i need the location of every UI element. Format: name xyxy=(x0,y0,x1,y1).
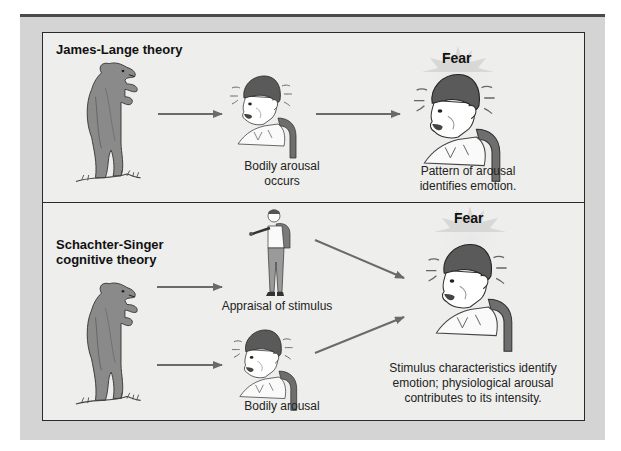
arrow-arousal-to-emotion xyxy=(315,317,404,353)
caption-pattern-identifies-emotion: Pattern of arousal identifies emotion. xyxy=(408,164,528,194)
caption-line: emotion; physiological arousal xyxy=(378,376,568,391)
bear-icon xyxy=(76,63,141,181)
hiker-pointing-icon xyxy=(249,210,290,297)
caption-line: contributes to its intensity. xyxy=(378,391,568,406)
caption-line: identifies emotion. xyxy=(408,179,528,194)
caption-line: Stimulus characteristics identify xyxy=(378,361,568,376)
emotion-label-fear: Fear xyxy=(454,210,484,226)
caption-line: Pattern of arousal xyxy=(408,164,528,179)
caption-bodily-arousal-occurs: Bodily arousal occurs xyxy=(232,159,332,189)
fearful-boy-icon xyxy=(426,245,512,352)
frightened-boy-icon xyxy=(230,76,296,158)
caption-bodily-arousal: Bodily arousal xyxy=(232,399,332,414)
caption-line: occurs xyxy=(232,174,332,189)
arrow-appraisal-to-emotion xyxy=(315,240,404,278)
emotion-label-fear: Fear xyxy=(442,50,472,66)
bear-icon xyxy=(76,283,141,404)
caption-appraisal-of-stimulus: Appraisal of stimulus xyxy=(212,299,342,314)
caption-stimulus-identifies-emotion: Stimulus characteristics identify emotio… xyxy=(378,361,568,406)
caption-line: Bodily arousal xyxy=(232,159,332,174)
